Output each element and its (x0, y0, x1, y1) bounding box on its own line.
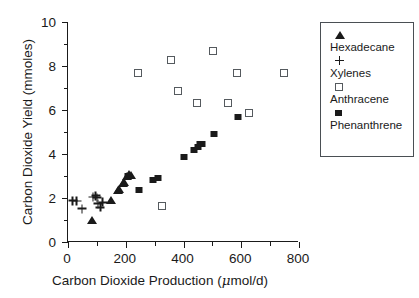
legend-entry-anthracene[interactable]: Anthracene (321, 81, 413, 106)
legend-marker-filled-triangle-icon (330, 29, 413, 40)
data-point-anthracene (193, 99, 201, 107)
legend-marker-filled-square-icon (330, 107, 413, 118)
data-point-phenanthrene (234, 114, 241, 120)
y-tick-major (62, 66, 68, 67)
filled-triangle-icon (335, 31, 345, 39)
legend-entry-xylenes[interactable]: Xylenes (321, 55, 413, 80)
data-point-phenanthrene (155, 175, 162, 181)
x-tick-major (126, 242, 127, 248)
legend-label: Phenanthrene (330, 118, 413, 132)
y-tick-major (62, 110, 68, 111)
legend-entry-phenanthrene[interactable]: Phenanthrene (321, 107, 413, 132)
data-point-phenanthrene (210, 131, 217, 137)
data-point-hexadecane (87, 216, 97, 224)
y-tick-major (62, 22, 68, 23)
data-point-anthracene (167, 56, 175, 64)
x-tick-minor (155, 242, 156, 246)
x-tick-label: 0 (63, 251, 71, 266)
x-tick-major (299, 242, 300, 248)
data-point-anthracene (224, 99, 232, 107)
mu-symbol: μ (222, 272, 231, 288)
legend-label: Anthracene (330, 92, 413, 106)
data-point-anthracene (209, 47, 217, 55)
data-point-phenanthrene (124, 173, 131, 179)
data-point-anthracene (233, 69, 241, 77)
legend-label: Hexadecane (330, 40, 413, 54)
data-point-xylenes (98, 198, 107, 207)
y-tick-minor (64, 44, 68, 45)
legend-marker-open-square-icon (330, 81, 413, 92)
plus-icon (335, 56, 344, 65)
legend-entry-hexadecane[interactable]: Hexadecane (321, 29, 413, 54)
x-tick-label: 400 (171, 251, 194, 266)
y-tick-minor (64, 88, 68, 89)
data-point-anthracene (174, 87, 182, 95)
x-tick-minor (97, 242, 98, 246)
open-square-icon (335, 83, 343, 91)
x-tick-label: 200 (113, 251, 136, 266)
data-point-anthracene (280, 69, 288, 77)
legend: HexadecaneXylenesAnthracenePhenanthrene (320, 22, 414, 157)
y-tick-minor (64, 132, 68, 133)
data-point-phenanthrene (136, 187, 143, 193)
data-point-xylenes (77, 204, 86, 213)
data-point-anthracene (134, 69, 142, 77)
x-axis-title: Carbon Dioxide Production (μmol/d) (0, 272, 320, 288)
y-tick-major (62, 154, 68, 155)
x-tick-label: 800 (287, 251, 310, 266)
plot-area (67, 22, 298, 242)
data-point-anthracene (158, 202, 166, 210)
x-tick-major (68, 242, 69, 248)
x-tick-major (184, 242, 185, 248)
x-tick-label: 600 (229, 251, 252, 266)
y-tick-minor (64, 176, 68, 177)
data-point-phenanthrene (181, 154, 188, 160)
x-tick-major (241, 242, 242, 248)
scatter-plot-figure: 0246810 0200400600800 Carbon Dioxide Pro… (0, 0, 419, 298)
filled-square-icon (335, 110, 342, 116)
legend-marker-plus-icon (330, 55, 413, 66)
legend-label: Xylenes (330, 66, 413, 80)
y-tick-major (62, 198, 68, 199)
y-tick-minor (64, 220, 68, 221)
x-tick-minor (270, 242, 271, 246)
data-point-phenanthrene (199, 141, 206, 147)
y-axis-title: Carbon Dioxide Yield (mmoles) (20, 17, 35, 247)
x-tick-minor (212, 242, 213, 246)
data-point-anthracene (245, 109, 253, 117)
data-point-hexadecane (106, 196, 116, 204)
